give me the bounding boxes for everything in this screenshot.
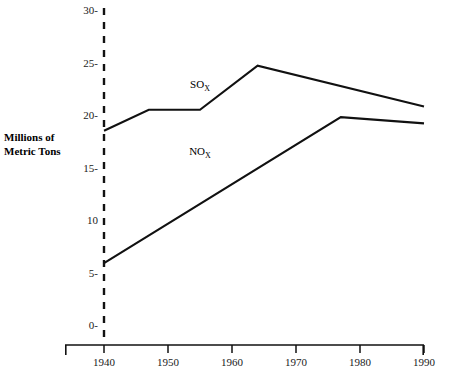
x-axis-tick-marks (104, 345, 424, 353)
y-tick-label: 30- (83, 4, 98, 16)
y-tick-label: 20- (83, 109, 98, 121)
y-tick-label: 0- (89, 319, 99, 331)
y-tick-label: 5- (89, 267, 99, 279)
y-tick-label: 15- (83, 162, 98, 174)
x-tick-label: 1980 (349, 356, 372, 368)
x-tick-label: 1940 (93, 356, 116, 368)
y-tick-label: 10 (87, 214, 99, 226)
data-series-labels: SOXNOX (189, 78, 211, 160)
y-axis-tick-labels: 0-5-1015-20-25-30- (83, 4, 98, 331)
series-line-sox (104, 66, 424, 131)
x-tick-label: 1950 (157, 356, 180, 368)
x-tick-label: 1970 (285, 356, 308, 368)
series-label-nox: NOX (189, 145, 211, 160)
emissions-line-chart: Millions of Metric Tons 0-5-1015-20-25-3… (0, 0, 451, 371)
chart-plot-area: 0-5-1015-20-25-30- 194019501960197019801… (0, 0, 451, 371)
x-axis-tick-labels: 194019501960197019801990 (93, 356, 436, 368)
x-tick-label: 1990 (413, 356, 436, 368)
x-tick-label: 1960 (221, 356, 244, 368)
data-series-lines (104, 66, 424, 263)
series-line-nox (104, 117, 424, 263)
series-label-sox: SOX (190, 78, 210, 93)
y-tick-label: 25- (83, 57, 98, 69)
